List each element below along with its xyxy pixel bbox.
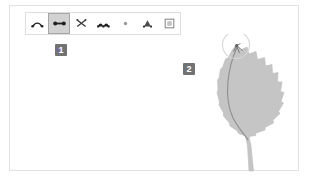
application-frame: 1 2 xyxy=(9,5,299,171)
shape-edit-toolbar xyxy=(25,12,181,35)
scissors-cut-icon xyxy=(75,17,88,30)
toolbar-button-smooth-curve-tool[interactable] xyxy=(26,13,48,34)
add-node-dot-icon xyxy=(119,17,132,30)
toolbar-button-corner-node-tool[interactable] xyxy=(92,13,114,34)
leaf-illustration[interactable] xyxy=(206,34,298,174)
symmetric-node-icon xyxy=(141,17,154,30)
leaf-blade-shape xyxy=(217,44,284,171)
straight-segment-icon xyxy=(53,17,66,30)
step-badge-2: 2 xyxy=(183,63,195,75)
smooth-curve-icon xyxy=(31,17,44,30)
bounding-box-icon xyxy=(163,17,176,30)
screenshot-root: 1 2 xyxy=(0,0,310,186)
step-badge-1: 1 xyxy=(55,44,67,56)
active-node-marker xyxy=(235,44,238,47)
toolbar-button-symmetric-node-tool[interactable] xyxy=(136,13,158,34)
leaf-svg xyxy=(206,34,298,174)
toolbar-button-cut-path-tool[interactable] xyxy=(70,13,92,34)
corner-node-icon xyxy=(97,17,110,30)
toolbar-button-straighten-tool[interactable] xyxy=(48,13,70,34)
toolbar-button-bounding-box-tool[interactable] xyxy=(158,13,180,34)
toolbar-button-add-node-tool[interactable] xyxy=(114,13,136,34)
